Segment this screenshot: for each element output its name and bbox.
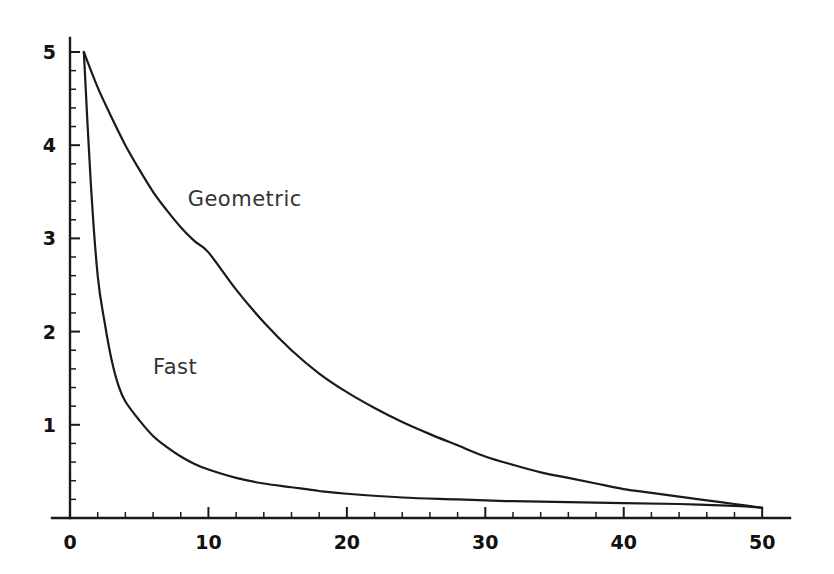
series-label-geometric: Geometric (188, 187, 302, 211)
y-tick-label: 4 (43, 134, 56, 156)
y-tick-label: 2 (43, 321, 56, 343)
x-tick-label: 0 (63, 531, 76, 553)
y-tick-label: 5 (43, 41, 56, 63)
chart-background (0, 0, 834, 574)
y-tick-label: 1 (43, 414, 56, 436)
chart-page: 12345 01020304050 GeometricFast (0, 0, 834, 574)
x-tick-label: 20 (334, 531, 360, 553)
x-tick-label: 40 (610, 531, 636, 553)
x-tick-label: 10 (195, 531, 221, 553)
x-tick-label: 50 (749, 531, 775, 553)
decay-curves-chart: 12345 01020304050 GeometricFast (0, 0, 834, 574)
series-label-fast: Fast (153, 355, 197, 379)
x-tick-label: 30 (472, 531, 498, 553)
y-tick-label: 3 (43, 227, 56, 249)
